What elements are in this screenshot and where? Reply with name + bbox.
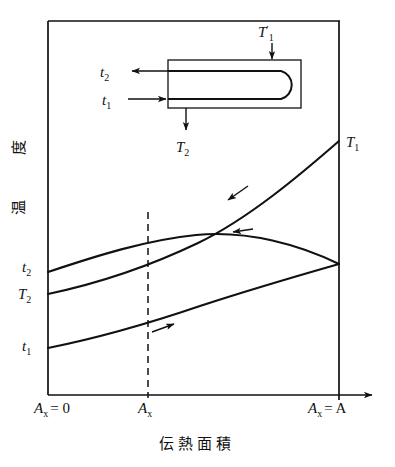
plot-label-t1: t1 <box>22 338 31 357</box>
curve-hot-fluid <box>48 141 339 294</box>
heat-exchanger-schematic: T′1 T2 t2 t1 <box>100 23 301 158</box>
shell-outline <box>168 60 301 108</box>
heat-exchanger-temperature-figure: T′1 T2 t2 t1 T1 t2 <box>0 0 395 467</box>
temperature-curves <box>48 141 339 348</box>
schematic-label-T2: T2 <box>176 139 189 158</box>
x-tick-label-origin: Ax= 0 <box>33 400 70 419</box>
plot-label-t2: t2 <box>22 259 31 278</box>
flow-direction-arrows <box>152 186 253 332</box>
curve-cold-second-pass <box>48 234 339 272</box>
plot-frame <box>48 21 372 400</box>
schematic-label-t2: t2 <box>100 64 109 83</box>
curve-cold-first-pass <box>48 264 339 348</box>
x-axis-tick-labels: Ax= 0 Ax Ax= A <box>33 400 347 419</box>
tube-hairpin <box>168 71 292 99</box>
y-axis-label-char-度: 度 <box>10 140 28 155</box>
flow-arrow-cold-second-pass <box>233 229 253 232</box>
plot-label-T2: T2 <box>18 286 31 305</box>
x-tick-label-mid: Ax <box>137 400 152 419</box>
x-axis-caption: 伝熱面積 <box>159 435 235 453</box>
y-axis-label: 度 温 <box>10 140 28 215</box>
schematic-label-T1-prime: T′1 <box>258 23 274 43</box>
x-tick-label-end: Ax= A <box>307 400 347 419</box>
y-axis-label-char-温: 温 <box>10 200 28 215</box>
schematic-label-t1: t1 <box>102 92 111 111</box>
flow-arrow-cold-first-pass <box>152 324 174 332</box>
plot-label-T1: T1 <box>346 134 359 153</box>
flow-arrow-hot <box>228 186 248 200</box>
